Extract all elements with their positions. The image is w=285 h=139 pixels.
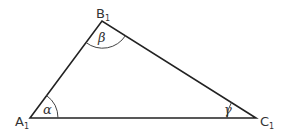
angle-label-beta: β — [97, 30, 106, 45]
vertex-label-c: C1 — [260, 114, 274, 131]
angle-label-alpha: α — [43, 102, 52, 117]
angle-label-gamma: γ — [224, 102, 232, 117]
vertex-label-a: A1 — [15, 114, 29, 131]
angle-arc-beta — [86, 36, 126, 49]
triangle — [30, 21, 256, 118]
triangle-diagram: α β γ A1 B1 C1 — [0, 0, 285, 139]
vertex-label-b: B1 — [96, 6, 110, 23]
